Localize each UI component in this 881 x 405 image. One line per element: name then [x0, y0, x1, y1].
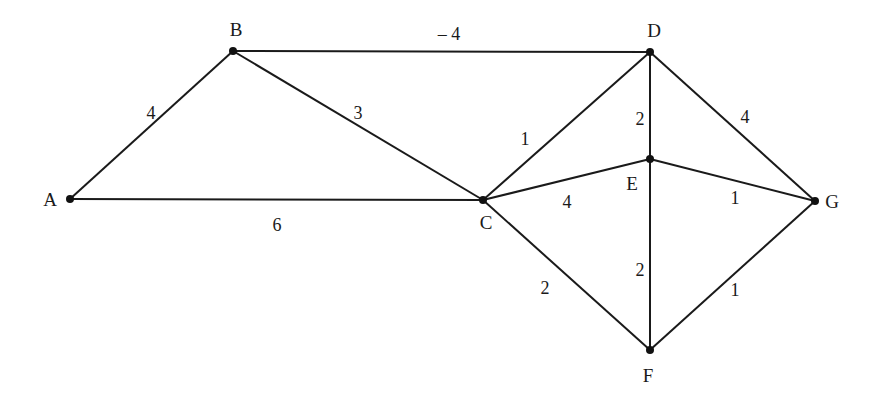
edge-weight-a-c: 6 — [273, 215, 282, 235]
node-a — [66, 195, 74, 203]
edge-a-b — [70, 51, 233, 199]
edge-weight-e-f: 2 — [636, 260, 645, 280]
node-label-g: G — [825, 191, 839, 212]
edges-layer — [70, 51, 815, 350]
edge-weight-a-b: 4 — [147, 103, 156, 123]
node-label-e: E — [626, 173, 638, 194]
edge-weight-d-g: 4 — [741, 107, 750, 127]
edge-d-g — [650, 52, 815, 201]
edge-b-d — [233, 51, 650, 52]
edge-weight-b-d: – 4 — [437, 24, 461, 44]
edge-weight-c-f: 2 — [541, 278, 550, 298]
edge-c-d — [483, 52, 650, 200]
edge-weight-b-c: 3 — [354, 103, 363, 123]
node-b — [229, 47, 237, 55]
edge-weight-f-g: 1 — [731, 280, 740, 300]
graph-diagram: 463– 414224121 ABCDEFG — [0, 0, 881, 405]
edge-b-c — [233, 51, 483, 200]
node-label-b: B — [230, 19, 243, 40]
node-g — [811, 197, 819, 205]
node-e — [646, 155, 654, 163]
node-labels-layer: ABCDEFG — [43, 19, 839, 386]
edge-f-g — [650, 201, 815, 350]
edge-weight-e-g: 1 — [731, 188, 740, 208]
edge-weight-d-e: 2 — [636, 109, 645, 129]
edge-weight-c-d: 1 — [521, 129, 530, 149]
node-f — [646, 346, 654, 354]
node-c — [479, 196, 487, 204]
node-label-f: F — [643, 365, 654, 386]
edge-weight-c-e: 4 — [563, 192, 572, 212]
node-label-a: A — [43, 189, 57, 210]
edge-c-f — [483, 200, 650, 350]
edge-a-c — [70, 199, 483, 200]
node-label-d: D — [647, 20, 661, 41]
node-label-c: C — [480, 212, 493, 233]
node-d — [646, 48, 654, 56]
